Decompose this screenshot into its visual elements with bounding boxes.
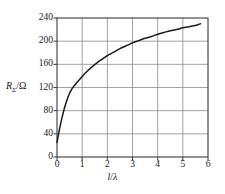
y-tick-label: 40	[26, 129, 53, 139]
gridlines	[57, 18, 208, 157]
x-tick-label: 3	[123, 160, 143, 170]
data-curve	[57, 24, 200, 143]
x-tick-label: 5	[173, 160, 193, 170]
x-tick-label: 4	[148, 160, 168, 170]
y-tick-label: 200	[26, 36, 53, 46]
x-axis-label: l/λ	[0, 171, 225, 182]
axis-ticks	[54, 18, 209, 161]
y-tick-label: 80	[26, 106, 53, 116]
y-tick-label: 160	[26, 59, 53, 69]
x-tick-label: 6	[198, 160, 218, 170]
y-tick-label: 120	[26, 83, 53, 93]
x-tick-label: 1	[72, 160, 92, 170]
y-tick-label: 240	[26, 13, 53, 23]
y-axis-label: RΣ/Ω	[6, 80, 27, 94]
x-tick-label: 2	[97, 160, 117, 170]
chart-figure: RΣ/Ω l/λ 04080120160200240 0123456	[0, 0, 225, 194]
x-axis-denominator: λ	[113, 171, 117, 182]
x-tick-label: 0	[47, 160, 67, 170]
